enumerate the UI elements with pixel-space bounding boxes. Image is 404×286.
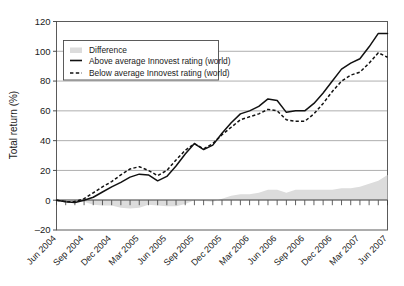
y-tick-label-100: 100 xyxy=(35,46,51,57)
y-axis-tick-labels: –20020406080100120 xyxy=(35,16,51,236)
total-return-line-chart: –20020406080100120 Jun 2004Sep 2004Dec 2… xyxy=(0,0,404,286)
legend-label-above-average: Above average Innovest rating (world) xyxy=(89,56,231,66)
x-tick-label-3: Mar 2005 xyxy=(107,233,141,267)
y-tick-label-40: 40 xyxy=(40,135,51,146)
y-axis-tick-marks xyxy=(53,22,57,231)
legend-swatch-difference xyxy=(70,48,82,54)
x-axis-tick-labels: Jun 2004Sep 2004Dec 2004Mar 2005Jun 2005… xyxy=(25,233,389,267)
y-tick-label-120: 120 xyxy=(35,16,51,27)
x-tick-label-12: Jun 2007 xyxy=(356,233,389,266)
chart-legend: Difference Above average Innovest rating… xyxy=(64,41,231,81)
x-tick-label-11: Mar 2007 xyxy=(327,233,361,267)
y-tick-label--20: –20 xyxy=(35,224,51,235)
y-axis-title: Total return (%) xyxy=(8,91,19,159)
y-tick-label-80: 80 xyxy=(40,75,51,86)
legend-label-below-average: Below average Innovest rating (world) xyxy=(89,68,230,78)
chart-container: –20020406080100120 Jun 2004Sep 2004Dec 2… xyxy=(0,0,404,286)
legend-label-difference: Difference xyxy=(89,45,127,55)
y-tick-label-60: 60 xyxy=(40,105,51,116)
y-tick-label-20: 20 xyxy=(40,165,51,176)
x-tick-label-7: Mar 2006 xyxy=(217,233,251,267)
y-tick-label-0: 0 xyxy=(45,195,50,206)
